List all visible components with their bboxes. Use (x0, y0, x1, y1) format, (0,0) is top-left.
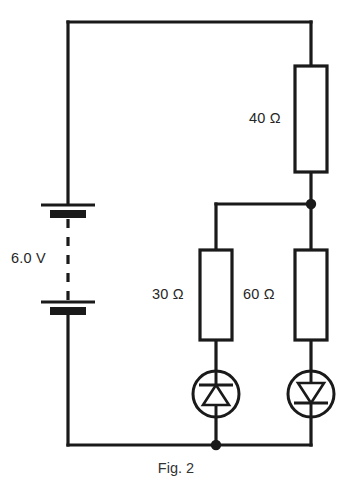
resistor-60-ohm-label: 60 Ω (243, 287, 275, 302)
battery-plate-negative-upper (50, 210, 86, 218)
resistor-40-ohm-body (295, 66, 327, 172)
resistor-30-ohm-body (200, 250, 232, 340)
resistor-40-ohm-label: 40 Ω (249, 111, 281, 126)
circuit-schematic-canvas (0, 0, 352, 492)
figure-caption: Fig. 2 (0, 461, 352, 476)
battery-voltage-label: 6.0 V (11, 251, 46, 266)
circuit-diagram-figure: 6.0 V 40 Ω 30 Ω 60 Ω Fig. 2 (0, 0, 352, 492)
resistor-60-ohm-body (295, 250, 327, 340)
battery-plate-negative-lower (50, 307, 86, 315)
junction-dot-upper (306, 199, 316, 209)
resistor-30-ohm-label: 30 Ω (152, 287, 184, 302)
junction-dot-lower (211, 440, 221, 450)
